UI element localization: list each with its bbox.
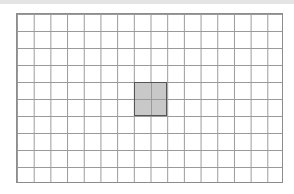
selected-cell-block[interactable]	[134, 82, 167, 116]
top-bar	[0, 0, 294, 4]
